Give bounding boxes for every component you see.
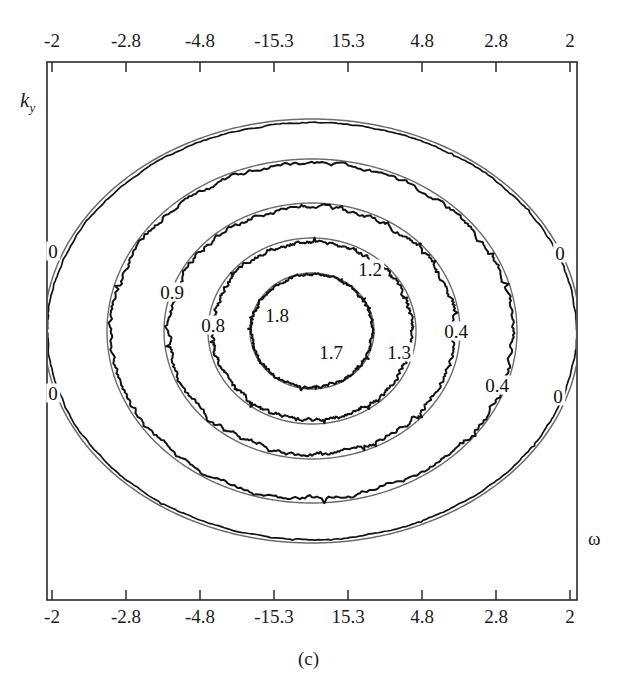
x-tick-label-bottom: 4.8 xyxy=(410,606,434,628)
x-tick-label-bottom: 2.8 xyxy=(484,606,508,628)
contour-label: 0 xyxy=(46,384,60,403)
x-tick-label-top: -4.8 xyxy=(185,30,215,52)
x-tick-label-top: -2.8 xyxy=(111,30,141,52)
y-axis-label-main: k xyxy=(20,88,30,112)
x-tick-label-top: -15.3 xyxy=(254,30,294,52)
contour-jagged-0 xyxy=(46,122,576,540)
x-tick-label-bottom: 15.3 xyxy=(331,606,364,628)
y-axis-label: ky xyxy=(20,88,36,116)
x-tick-label-top: 2.8 xyxy=(484,30,508,52)
x-tick-label-bottom: -2.8 xyxy=(111,606,141,628)
plot-frame xyxy=(47,62,577,600)
axis-ticks xyxy=(52,62,570,600)
x-tick-label-bottom: 2 xyxy=(565,606,575,628)
x-tick-label-top: 2 xyxy=(565,30,575,52)
contour-label: 0 xyxy=(46,242,60,261)
contour-figure: ky ω -2-2.8-4.8-15.315.34.82.82 -2-2.8-4… xyxy=(0,0,617,696)
contour-label: 1.8 xyxy=(263,306,291,325)
x-tick-label-top: 15.3 xyxy=(331,30,364,52)
x-tick-label-bottom: -15.3 xyxy=(254,606,294,628)
contour-curves xyxy=(44,119,580,543)
x-tick-label-top: -2 xyxy=(44,30,60,52)
contour-label: 0 xyxy=(553,244,567,263)
figure-caption: (c) xyxy=(0,648,617,670)
contour-label: 1.2 xyxy=(356,260,384,279)
contour-label: 0.8 xyxy=(199,316,227,335)
x-axis-label: ω xyxy=(588,528,601,550)
contour-label: 1.3 xyxy=(385,343,413,362)
x-tick-label-bottom: -2 xyxy=(44,606,60,628)
contour-label: 0 xyxy=(551,387,565,406)
y-axis-label-sub: y xyxy=(30,100,36,115)
x-tick-label-bottom: -4.8 xyxy=(185,606,215,628)
x-tick-label-top: 4.8 xyxy=(410,30,434,52)
contour-smooth-1.2 xyxy=(208,238,416,424)
contour-label: 1.7 xyxy=(317,343,345,362)
contour-label: 0.4 xyxy=(483,376,511,395)
contour-plot-canvas xyxy=(0,0,617,696)
contour-label: 0.4 xyxy=(442,322,470,341)
contour-label: 0.9 xyxy=(158,283,186,302)
